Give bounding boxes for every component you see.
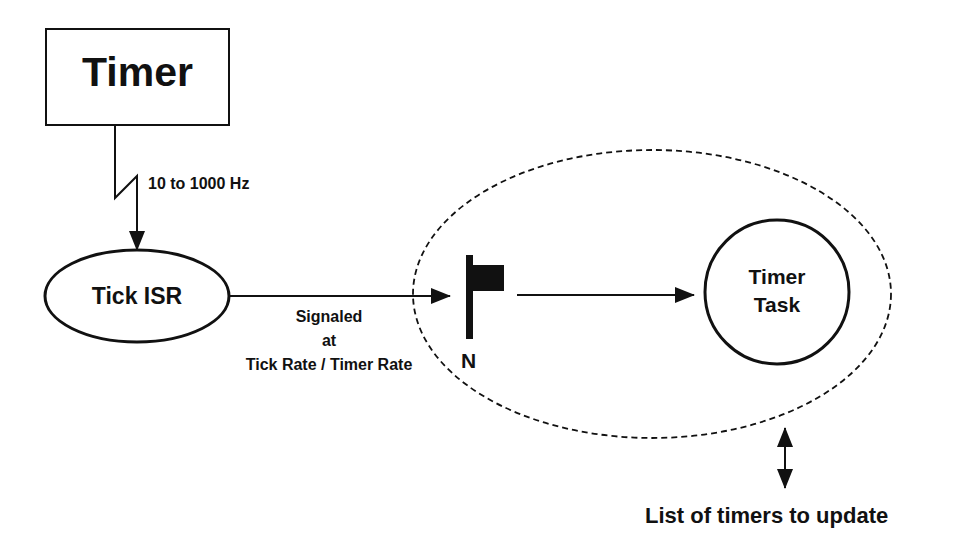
flag-icon	[466, 255, 504, 339]
signal-label-line2: at	[209, 329, 449, 353]
signal-label: Signaled at Tick Rate / Timer Rate	[209, 305, 449, 377]
semaphore-count-label: N	[461, 349, 476, 373]
timer-task-label-line1: Timer	[705, 263, 849, 291]
timer-list-label: List of timers to update	[645, 503, 888, 529]
frequency-label: 10 to 1000 Hz	[148, 175, 249, 193]
timer-task-label: Timer Task	[705, 263, 849, 319]
timer-task-label-line2: Task	[705, 291, 849, 319]
timer-box-label: Timer	[46, 49, 229, 96]
signal-label-line1: Signaled	[209, 305, 449, 329]
signal-label-line3: Tick Rate / Timer Rate	[209, 353, 449, 377]
interrupt-signal-line	[115, 125, 137, 236]
tick-isr-label: Tick ISR	[45, 283, 229, 310]
